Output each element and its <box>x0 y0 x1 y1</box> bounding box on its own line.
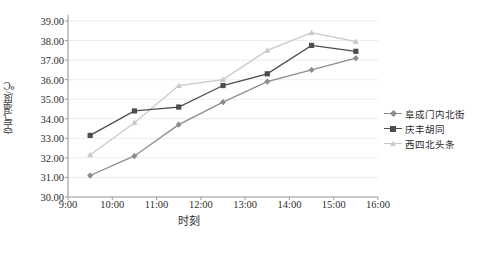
data-point-marker <box>308 30 314 36</box>
air-temperature-line-chart: 空气温度/℃ 30.0031.0032.0033.0034.0035.0036.… <box>0 0 482 258</box>
legend-label: 西四北头条 <box>405 137 455 151</box>
series-line <box>90 45 356 135</box>
data-point-marker <box>220 99 226 105</box>
series-line <box>90 33 356 155</box>
x-tick-label: 9:00 <box>59 199 78 210</box>
legend-item-1[interactable]: 庆丰胡同 <box>384 121 480 136</box>
legend-marker-icon <box>384 139 402 149</box>
data-point-marker <box>88 133 93 138</box>
legend-item-2[interactable]: 西四北头条 <box>384 136 480 151</box>
legend-marker-icon <box>384 109 402 119</box>
x-axis-tick-labels: 9:0010:0011:0012:0013:0014:0015:0016:00 <box>0 195 482 213</box>
legend-label: 庆丰胡同 <box>405 122 445 136</box>
x-tick-label: 15:00 <box>322 199 346 210</box>
legend-marker-icon <box>384 124 402 134</box>
series-1 <box>88 43 359 138</box>
data-point-marker <box>353 49 358 54</box>
data-point-marker <box>265 71 270 76</box>
data-point-marker <box>309 67 315 73</box>
data-point-marker <box>176 104 181 109</box>
data-point-marker <box>309 43 314 48</box>
x-axis-label: 时刻 <box>0 212 378 228</box>
x-tick-label: 14:00 <box>277 199 301 210</box>
series-0 <box>87 55 359 179</box>
x-tick-label: 16:00 <box>366 199 390 210</box>
data-point-marker <box>132 108 137 113</box>
x-tick-label: 13:00 <box>233 199 257 210</box>
x-tick-label: 10:00 <box>100 199 124 210</box>
chart-legend: 阜成门内北街庆丰胡同西四北头条 <box>384 106 480 151</box>
x-tick-label: 11:00 <box>145 199 169 210</box>
data-point-marker <box>220 83 225 88</box>
legend-item-0[interactable]: 阜成门内北街 <box>384 106 480 121</box>
x-tick-label: 12:00 <box>189 199 213 210</box>
legend-label: 阜成门内北街 <box>405 107 465 121</box>
